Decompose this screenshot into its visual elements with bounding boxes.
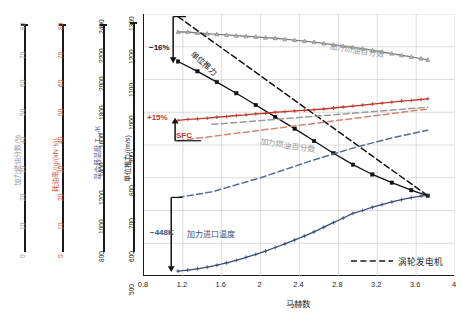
axis-tick-label: 1800 [98, 105, 105, 120]
series-marker [370, 205, 374, 209]
series-marker [390, 181, 393, 184]
x-axis-tick-label: 4 [452, 280, 456, 289]
axis-tick-label: 50 [57, 108, 64, 115]
series-line [212, 107, 428, 124]
series-marker [225, 115, 229, 119]
axis-tick-label: 1200 [98, 190, 105, 205]
series-marker [176, 269, 180, 273]
series-marker [215, 263, 219, 267]
series-marker [273, 110, 277, 114]
x-axis-tick-label: 1.2 [177, 280, 187, 289]
axis-tick-label: 2000 [98, 76, 105, 91]
axis-tick-label: 50 [19, 108, 26, 115]
x-axis-tick-label: 0.8 [138, 280, 148, 289]
x-axis-title: 马赫数 [286, 297, 310, 309]
series-marker [244, 113, 248, 117]
series-marker [254, 103, 257, 106]
axis-tick-label: 1100 [128, 83, 135, 97]
series-marker [176, 60, 179, 63]
series-marker [244, 255, 248, 259]
series-marker [370, 102, 374, 106]
axis-tick-label: 0 [57, 254, 64, 258]
label-afterburner-inlet-temp: 加力进口温度 [187, 228, 235, 239]
series-marker [274, 115, 277, 118]
label-sfc: SFC [176, 131, 192, 140]
axis-tick-label: 1600 [98, 133, 105, 148]
annotation-delta-afterburner-inlet-temp: −448K [150, 228, 174, 237]
series-marker [235, 92, 238, 95]
axis-tick-label: 60 [57, 80, 64, 87]
arrow-head [170, 57, 177, 63]
axis-tick-label: 80 [19, 23, 26, 30]
axis-tick-label: 700 [128, 218, 135, 229]
x-axis-tick-label: 3.6 [410, 280, 420, 289]
series-marker [390, 100, 394, 104]
series-marker [234, 114, 238, 118]
series-marker [390, 200, 394, 204]
annotation-arrow [173, 17, 186, 59]
axis-tick-label: 60 [19, 80, 26, 87]
series-marker [196, 70, 199, 73]
legend-swatch-dashed-line [350, 258, 394, 264]
x-axis-tick-label: 2 [258, 280, 262, 289]
series-marker [273, 246, 277, 250]
axis-tick-label: 800 [98, 251, 105, 262]
axis-tick-label: 20 [19, 194, 26, 201]
series-marker [371, 173, 374, 176]
axis-tick-label: 900 [128, 152, 135, 163]
axis-tick-label: 800 [128, 185, 135, 196]
axis-tick-label: 30 [57, 165, 64, 172]
series-marker [419, 98, 423, 102]
axis-tick-label: 80 [57, 23, 64, 30]
series-marker [205, 265, 209, 269]
series-marker [410, 188, 413, 191]
series-line [178, 17, 428, 196]
arrow-head [168, 266, 175, 272]
series-marker [409, 196, 413, 200]
series-marker [196, 267, 200, 271]
series-marker [205, 116, 209, 120]
series-marker [215, 80, 218, 83]
axis-tick-label: 1000 [128, 115, 135, 130]
legend-label-turbo-generator: 涡轮发电机 [398, 255, 443, 267]
series-marker [400, 198, 404, 202]
x-axis-tick-label: 1.6 [216, 280, 226, 289]
series-marker [283, 110, 287, 114]
axis-tick-label: 1200 [128, 49, 135, 64]
series-marker [254, 252, 258, 256]
series-marker [225, 261, 229, 265]
axis-tick-label: 1300 [128, 16, 135, 31]
series-marker [351, 163, 354, 166]
chart-figure: 加力燃油分数/% 0 10 20 30 40 50 60 70 80 耗油率/(… [0, 0, 468, 322]
series-marker [264, 249, 268, 253]
axis-tick-label: 0 [19, 254, 26, 258]
series-marker [186, 118, 190, 122]
series-marker [361, 103, 365, 107]
series-line [178, 130, 428, 197]
x-axis-tick-label: 3.2 [371, 280, 381, 289]
series-line [178, 109, 428, 141]
series-marker [380, 203, 384, 207]
series-marker [426, 97, 430, 101]
series-marker [332, 106, 336, 110]
series-marker [409, 99, 413, 103]
series-marker [196, 117, 200, 121]
series-marker [361, 209, 365, 213]
axis-tick-label: 40 [57, 137, 64, 144]
series-marker [400, 99, 404, 103]
series-marker [341, 105, 345, 109]
axis-tick-label: 70 [57, 51, 64, 58]
x-axis-tick-label: 2.8 [332, 280, 342, 289]
series-marker [351, 104, 355, 108]
axis-tick-label: 20 [57, 194, 64, 201]
axis-tick-label: 10 [57, 222, 64, 229]
axis-tick-label: 1400 [98, 162, 105, 177]
axis-tick-label: 40 [19, 137, 26, 144]
axis-tick-label: 2200 [98, 48, 105, 63]
series-marker [293, 127, 296, 130]
series-marker [215, 115, 219, 119]
axis-tick-label: 30 [19, 165, 26, 172]
series-marker [302, 234, 306, 238]
series-marker [380, 101, 384, 105]
series-marker [186, 268, 190, 272]
